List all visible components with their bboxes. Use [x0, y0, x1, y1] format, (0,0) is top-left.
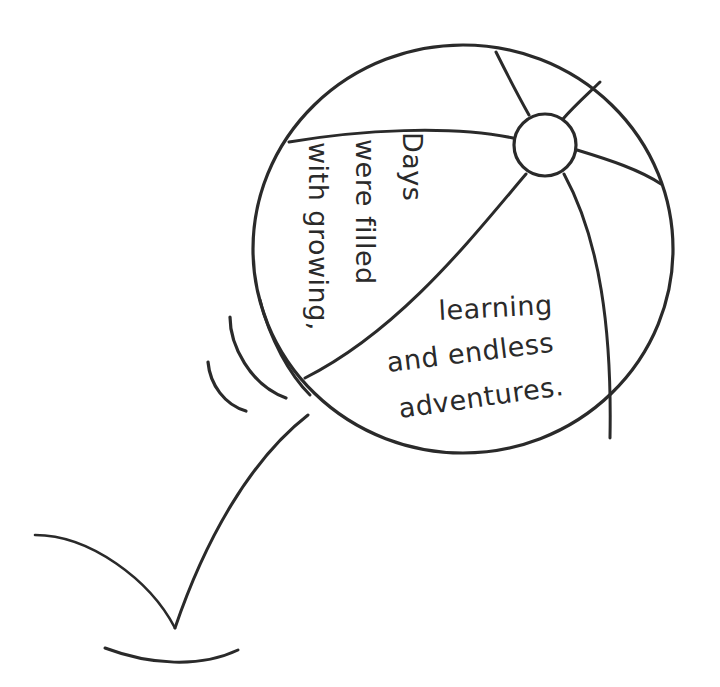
- motion-lines: [208, 300, 310, 411]
- text-line-adventures: adventures.: [397, 370, 566, 424]
- text-line-with-growing: with growing,: [303, 142, 334, 331]
- text-line-and-endless: and endless: [385, 327, 556, 378]
- bounce-path-left-stroke: [35, 535, 175, 628]
- ground-shadow-arc: [105, 648, 238, 662]
- bounce-path-right-stroke: [175, 415, 308, 628]
- text-line-days: Days: [397, 132, 428, 201]
- motion-line-middle: [230, 317, 286, 398]
- text-line-learning: learning: [438, 289, 554, 326]
- text-line-were-filled: were filled: [350, 139, 381, 285]
- ball-seam: [564, 174, 610, 438]
- ball-seam: [496, 52, 529, 115]
- beach-ball-illustration: Days were filled with growing, learning …: [0, 0, 720, 687]
- ball-text-lower: learning and endless adventures.: [385, 289, 566, 424]
- ball-valve-cap: [514, 114, 576, 176]
- beach-ball: Days were filled with growing, learning …: [253, 45, 673, 453]
- motion-line-outer: [208, 362, 246, 411]
- ball-seam: [563, 82, 600, 119]
- bounce-trail: [35, 415, 308, 662]
